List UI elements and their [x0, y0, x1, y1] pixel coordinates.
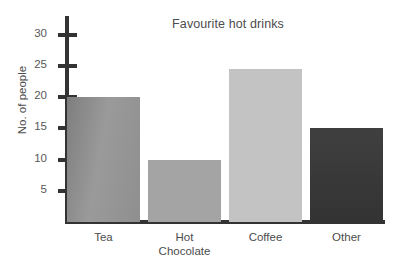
bar [67, 97, 140, 222]
y-tick-label-15: 15 [17, 120, 47, 132]
y-tick-label-10: 10 [17, 152, 47, 164]
x-axis-label: Coffee [219, 230, 312, 244]
x-axis-label: Tea [57, 230, 150, 244]
y-tick-30 [58, 33, 77, 37]
bar [148, 160, 221, 222]
bar-chart: Favourite hot drinks No. of people 51015… [0, 0, 405, 263]
y-tick-25 [58, 64, 77, 68]
y-tick-label-5: 5 [17, 183, 47, 195]
bar [310, 128, 383, 222]
y-tick-label-20: 20 [17, 89, 47, 101]
y-tick-label-25: 25 [17, 58, 47, 70]
x-axis-label: Hot Chocolate [138, 230, 231, 258]
plot-area: 51015202530 TeaHot ChocolateCoffeeOther [0, 0, 405, 263]
x-axis-label: Other [300, 230, 393, 244]
y-tick-label-30: 30 [17, 27, 47, 39]
bar [229, 69, 302, 222]
